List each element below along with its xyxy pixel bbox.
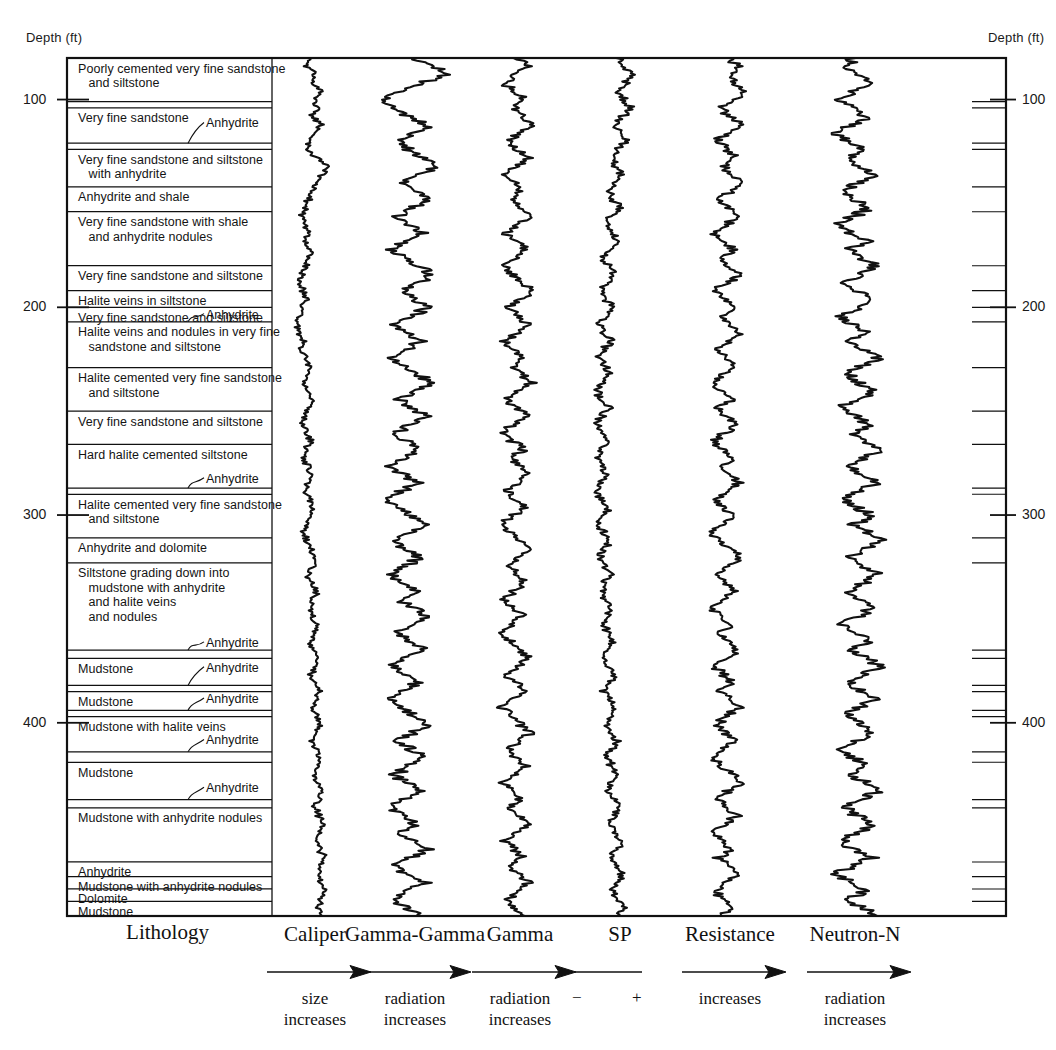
- depth-axis-label-right: Depth (ft): [988, 30, 1044, 45]
- anhydrite-callout-label: Anhydrite: [206, 692, 259, 706]
- lithology-unit-label: Halite veins in siltstone: [78, 294, 206, 309]
- log-curve-resistance: [710, 58, 746, 916]
- anhydrite-callout-label: Anhydrite: [206, 781, 259, 795]
- log-curve-caliper: [295, 58, 329, 916]
- lithology-unit-label: Very fine sandstone and siltstone: [78, 415, 263, 430]
- depth-tick-label: 200: [23, 298, 46, 314]
- lithology-unit-label: Mudstone: [78, 695, 133, 710]
- depth-tick-label: 100: [23, 91, 46, 107]
- lithology-unit-label: Anhydrite and dolomite: [78, 541, 207, 556]
- lithology-unit-label: Hard halite cemented siltstone: [78, 448, 248, 463]
- log-curve-sp: [594, 58, 635, 916]
- lithology-column-header: Lithology: [60, 920, 275, 945]
- depth-tick-label: 100: [1022, 91, 1045, 107]
- depth-tick-label: 400: [1022, 714, 1045, 730]
- lithology-unit-label: Mudstone: [78, 766, 133, 781]
- lithology-unit-label: Halite cemented very fine sandstone and …: [78, 371, 282, 400]
- depth-tick-label: 300: [1022, 506, 1045, 522]
- lithology-unit-label: Very fine sandstone: [78, 111, 189, 126]
- lithology-unit-label: Siltstone grading down into mudstone wit…: [78, 566, 229, 624]
- lithology-unit-label: Very fine sandstone with shale and anhyd…: [78, 215, 248, 244]
- lithology-unit-label: Mudstone with halite veins: [78, 720, 226, 735]
- track-direction-label-neutron-n: radiation increases: [755, 988, 955, 1030]
- anhydrite-callout-label: Anhydrite: [206, 636, 259, 650]
- log-curve-gamma-gamma: [382, 58, 450, 916]
- direction-arrows: [267, 966, 911, 979]
- lithology-unit-label: Anhydrite and shale: [78, 190, 189, 205]
- anhydrite-callout-label: Anhydrite: [206, 661, 259, 675]
- log-curve-gamma: [497, 58, 537, 916]
- lithology-unit-label: Very fine sandstone and siltstone with a…: [78, 153, 263, 182]
- lithology-unit-label: Poorly cemented very fine sandstone and …: [78, 62, 285, 91]
- lithology-unit-label: Mudstone: [78, 905, 133, 920]
- anhydrite-callout-label: Anhydrite: [206, 116, 259, 130]
- lithology-unit-label: Halite veins and nodules in very fine sa…: [78, 325, 280, 354]
- depth-tick-label: 300: [23, 506, 46, 522]
- anhydrite-callout-label: Anhydrite: [206, 733, 259, 747]
- lithology-unit-label: Mudstone: [78, 662, 133, 677]
- depth-tick-label: 200: [1022, 298, 1045, 314]
- track-title-neutron-n: Neutron-N: [745, 922, 965, 947]
- track-direction-label-gamma: radiation increases: [420, 988, 620, 1030]
- depth-axis-label-left: Depth (ft): [26, 30, 82, 45]
- log-curves: [295, 58, 887, 916]
- log-curve-neutron-n: [831, 58, 886, 916]
- lithology-unit-label: Anhydrite: [78, 865, 131, 880]
- anhydrite-callout-label: Anhydrite: [206, 472, 259, 486]
- well-log-figure: Depth (ft) Depth (ft) 100200300400 10020…: [0, 0, 1056, 1050]
- lithology-unit-label: Very fine sandstone and siltstone: [78, 269, 263, 284]
- anhydrite-callout-label: Anhydrite: [206, 308, 259, 322]
- depth-tick-label: 400: [23, 714, 46, 730]
- sp-minus-sign: −: [572, 988, 582, 1008]
- lithology-unit-label: Mudstone with anhydrite nodules: [78, 811, 262, 826]
- lithology-unit-label: Halite cemented very fine sandstone and …: [78, 498, 282, 527]
- depth-ticks-right: [972, 100, 1016, 902]
